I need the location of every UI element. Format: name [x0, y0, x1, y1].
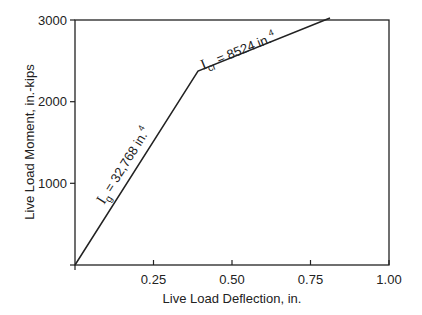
y-tick-2000: 2000: [38, 94, 67, 109]
x-axis-title: Live Load Deflection, in.: [163, 291, 302, 306]
x-tick-0.75: 0.75: [298, 272, 323, 287]
y-axis-ticks: [70, 20, 75, 265]
x-tick-0.50: 0.50: [219, 272, 244, 287]
y-axis-title: Live Load Moment, in.-kips: [22, 64, 37, 220]
x-axis-tick-labels: 0.25 0.50 0.75 1.00: [141, 272, 402, 287]
svg-text:Icr = 8524 in.4: Icr = 8524 in.4: [198, 27, 279, 75]
annotation-ig: Ig = 32,768 in.4: [92, 123, 155, 208]
moment-deflection-line: [75, 18, 330, 265]
annotation-icr: Icr = 8524 in.4: [198, 27, 279, 75]
chart: 1000 2000 3000 0.25 0.50 0.75 1.00 Live …: [0, 0, 422, 315]
x-tick-0.25: 0.25: [141, 272, 166, 287]
y-tick-3000: 3000: [38, 13, 67, 28]
y-tick-1000: 1000: [38, 176, 67, 191]
y-axis-tick-labels: 1000 2000 3000: [38, 13, 67, 191]
svg-text:Ig = 32,768 in.4: Ig = 32,768 in.4: [92, 123, 155, 208]
x-tick-1.00: 1.00: [376, 272, 401, 287]
